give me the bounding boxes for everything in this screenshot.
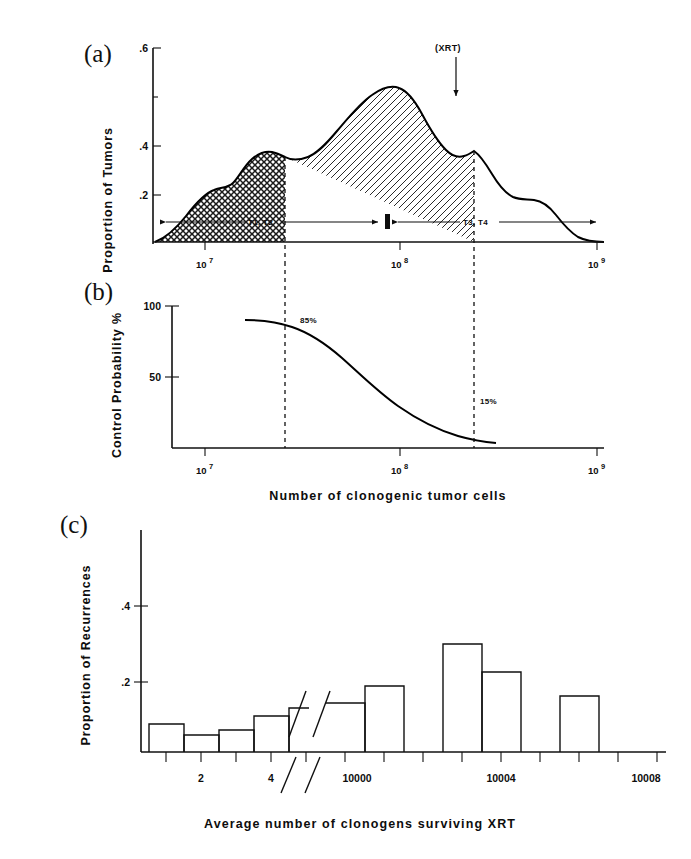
panel-c-ytick-label-0: .4 [121, 600, 130, 612]
panel-b-annot-85: 85% [300, 316, 317, 325]
scientific-figure: (a) Proportion of Tumors .6 .4 .2 10 7 1… [0, 0, 691, 859]
panel-b-xtick-exp-2: 9 [601, 462, 605, 471]
panel-b-xtick-exp-1: 8 [404, 462, 408, 471]
panel-a-ylabel: Proportion of Tumors [101, 127, 115, 273]
panel-b-annot-15: 15% [480, 397, 497, 406]
panel-a-t3t4-label: T3, T4 [463, 218, 488, 227]
panel-a-t1t2-label: T1, T2 [248, 218, 273, 227]
panel-a-ytick-label-2: .2 [139, 189, 148, 201]
panel-a-xtick-exp-0: 7 [209, 256, 213, 265]
panel-b-xtick-base-2: 10 [588, 465, 599, 476]
figure-root: (a) Proportion of Tumors .6 .4 .2 10 7 1… [0, 0, 691, 859]
panel-c-ylabel: Proportion of Recurrences [79, 565, 93, 746]
panel-b-ylabel: Control Probability % [110, 312, 124, 458]
panel-a-xtick-base-2: 10 [588, 259, 599, 270]
panel-a-center-marker [385, 214, 390, 229]
panel-a-xtick-base-1: 10 [391, 259, 402, 270]
panel-a-xtick-base-0: 10 [196, 259, 207, 270]
panel-a-xtick-exp-2: 9 [601, 256, 605, 265]
panel-a-letter: (a) [84, 40, 112, 68]
panel-c-xtick-label-3: 10004 [486, 772, 515, 784]
panel-b-xtick-base-0: 10 [196, 465, 207, 476]
panel-c-letter: (c) [60, 511, 88, 539]
panel-c-xtick-label-4: 10008 [631, 772, 660, 784]
panel-c-xtick-label-2: 10000 [342, 772, 371, 784]
panel-a-ytick-label-0: .6 [139, 42, 148, 54]
panel-c-ytick-label-1: .2 [121, 676, 130, 688]
panel-a-ytick-label-1: .4 [139, 140, 148, 152]
panel-c-xlabel: Average number of clonogens surviving XR… [204, 817, 516, 831]
panel-b-xtick-base-1: 10 [391, 465, 402, 476]
panel-c-xtick-label-1: 4 [268, 772, 274, 784]
panel-a-xtick-exp-1: 8 [404, 256, 408, 265]
panel-c-xtick-label-0: 2 [198, 772, 204, 784]
panel-b-xlabel: Number of clonogenic tumor cells [269, 489, 506, 503]
panel-b-ytick-label-0: 100 [143, 300, 161, 312]
panel-b-xtick-exp-0: 7 [209, 462, 213, 471]
panel-b-ytick-label-1: 50 [149, 371, 161, 383]
panel-b-letter: (b) [84, 278, 113, 306]
panel-a-xrt-label: (XRT) [435, 43, 461, 53]
